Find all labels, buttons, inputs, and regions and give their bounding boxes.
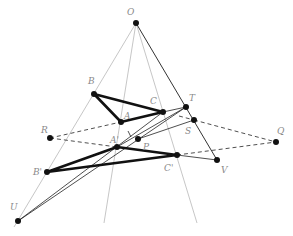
label-p: P <box>142 142 150 152</box>
point-o <box>133 20 139 26</box>
label-c-prime: C' <box>164 163 173 173</box>
dashed-lines <box>50 116 276 155</box>
point-c <box>160 109 166 115</box>
label-b-prime: B' <box>32 167 42 177</box>
label-v: V <box>221 165 229 175</box>
point-u <box>15 218 21 224</box>
labels: O B C A T S R Q A' P B' C' V U <box>10 7 285 212</box>
label-s: S <box>185 126 191 136</box>
desargues-diagram: O B C A T S R Q A' P B' C' V U <box>0 0 293 236</box>
point-b <box>91 91 97 97</box>
label-a: A <box>123 111 131 121</box>
point-q <box>273 139 279 145</box>
point-p <box>135 136 141 142</box>
point-r <box>47 135 53 141</box>
label-c: C <box>150 96 157 106</box>
point-s <box>191 117 197 123</box>
label-q: Q <box>277 126 285 136</box>
point-v <box>214 157 220 163</box>
label-r: R <box>40 125 48 135</box>
label-b: B <box>87 76 95 86</box>
point-t <box>183 104 189 110</box>
label-u: U <box>10 202 18 212</box>
line-o-v <box>136 23 217 160</box>
label-a-prime: A' <box>109 135 119 145</box>
label-t: T <box>189 93 196 103</box>
label-o: O <box>127 7 135 17</box>
point-b-prime <box>44 169 50 175</box>
point-c-prime <box>174 152 180 158</box>
